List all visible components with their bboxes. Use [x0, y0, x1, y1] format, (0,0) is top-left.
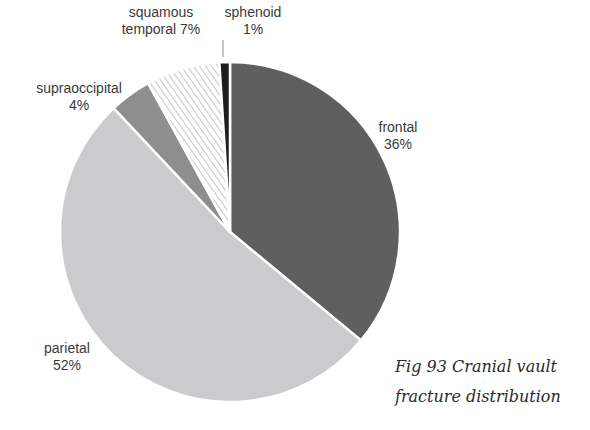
label-frontal: frontal 36% — [366, 119, 430, 153]
caption-line-1: Fig 93 Cranial vault — [395, 352, 561, 382]
label-supraoccipital-pct: 4% — [20, 97, 138, 114]
label-sphenoid-pct: 1% — [216, 21, 290, 38]
label-supraoccipital-name: supraoccipital — [20, 80, 138, 97]
label-squamous-pct: temporal 7% — [96, 21, 226, 38]
label-squamous-temporal: squamous temporal 7% — [96, 4, 226, 38]
caption-line-2: fracture distribution — [395, 382, 561, 412]
label-squamous-name: squamous — [96, 4, 226, 21]
label-parietal: parietal 52% — [30, 340, 104, 374]
figure-caption: Fig 93 Cranial vault fracture distributi… — [395, 352, 561, 412]
label-supraoccipital: supraoccipital 4% — [20, 80, 138, 114]
label-parietal-pct: 52% — [30, 357, 104, 374]
label-frontal-pct: 36% — [366, 136, 430, 153]
label-parietal-name: parietal — [30, 340, 104, 357]
label-frontal-name: frontal — [366, 119, 430, 136]
label-sphenoid: sphenoid 1% — [216, 4, 290, 38]
label-sphenoid-name: sphenoid — [216, 4, 290, 21]
